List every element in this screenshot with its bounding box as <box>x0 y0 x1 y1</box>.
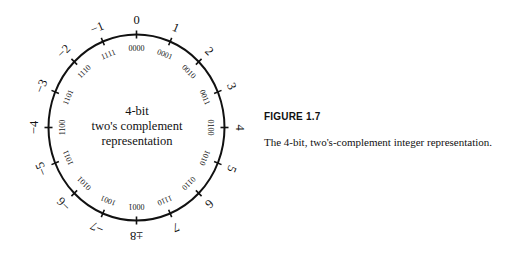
binary-label: 1110 <box>76 63 93 80</box>
binary-label: 0001 <box>156 47 174 61</box>
center-line-1: 4-bit <box>125 104 149 118</box>
binary-label: 0101 <box>75 175 93 193</box>
decimal-label: 6 <box>202 197 216 211</box>
decimal-label: 7 <box>170 220 181 235</box>
binary-label: 1001 <box>99 193 117 207</box>
decimal-label: 4 <box>233 124 247 131</box>
binary-label: 1111 <box>99 47 116 61</box>
decimal-label: 5 <box>224 163 239 174</box>
binary-label: 1011 <box>61 149 75 167</box>
decimal-label: −5 <box>32 160 50 178</box>
decimal-label: 3 <box>224 81 239 92</box>
decimal-label: −4 <box>27 120 41 134</box>
center-line-2: two's complement <box>92 119 183 133</box>
decimal-label: 2 <box>202 44 216 58</box>
twos-complement-wheel: 01234567±8−7−6−5−4−3−2−1 000000010010001… <box>0 0 270 256</box>
binary-label: 0011 <box>198 88 212 106</box>
binary-label: 1100 <box>58 120 67 136</box>
center-caption: 4-bit two's complement representation <box>92 104 183 148</box>
binary-label: 1101 <box>61 88 75 106</box>
decimal-label: 0 <box>133 13 139 27</box>
decimal-label: 1 <box>170 20 181 35</box>
decimal-label: −2 <box>54 41 73 60</box>
figure-caption: The 4-bit, two's-complement integer repr… <box>264 136 492 148</box>
binary-label: 1110 <box>156 193 174 207</box>
binary-label: 0010 <box>180 63 198 81</box>
decimal-label: −6 <box>54 194 73 213</box>
binary-label: 0000 <box>129 44 145 53</box>
decimal-label: −1 <box>88 19 106 37</box>
binary-label: 0110 <box>180 175 197 192</box>
binary-label: 1010 <box>198 149 212 167</box>
center-line-3: representation <box>102 134 174 148</box>
binary-label: 0001 <box>129 202 145 211</box>
decimal-label: ±8 <box>130 229 143 243</box>
decimal-label: −7 <box>88 218 106 236</box>
decimal-label: −3 <box>32 77 50 95</box>
binary-label: 0100 <box>206 120 215 136</box>
figure-label: FIGURE 1.7 <box>264 111 320 122</box>
